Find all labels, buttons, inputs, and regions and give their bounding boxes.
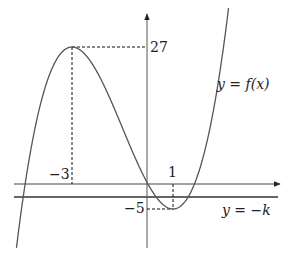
label-minus-3: −3 — [49, 166, 70, 182]
label-1: 1 — [168, 164, 177, 180]
label-y-equals-minus-k: y = −k — [221, 202, 271, 218]
label-27: 27 — [150, 39, 168, 55]
function-graph: 27 −5 −3 1 y = f(x) y = −k — [0, 0, 290, 263]
curve-f-of-x — [16, 8, 228, 248]
label-minus-5: −5 — [124, 200, 145, 216]
label-y-equals-f-of-x: y = f(x) — [216, 76, 270, 92]
